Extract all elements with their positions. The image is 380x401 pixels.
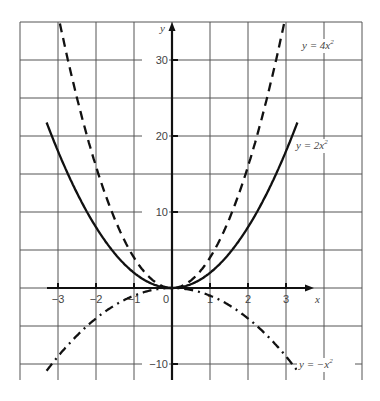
y-tick-label: 20 <box>156 130 168 142</box>
y-tick-label: −10 <box>149 358 168 370</box>
y-axis-label: y <box>159 22 165 34</box>
parabola-chart: −3−2−10123−10102030xy y = 4x2y = 2x2y = … <box>0 0 380 401</box>
x-tick-label: 3 <box>283 293 289 305</box>
y-tick-label: 30 <box>156 54 168 66</box>
x-tick-label: −2 <box>90 293 103 305</box>
labels: y = 4x2y = 2x2y = −x2 <box>294 38 358 372</box>
x-tick-label: 0 <box>163 293 169 305</box>
x-axis-label: x <box>314 293 320 305</box>
y-axis-arrow-icon <box>169 22 176 31</box>
x-tick-label: −3 <box>52 293 65 305</box>
x-axis-arrow-icon <box>305 285 314 292</box>
x-tick-label: 2 <box>245 293 251 305</box>
y-tick-label: 10 <box>156 206 168 218</box>
curve-label: y = 4x2 <box>301 38 334 51</box>
curve-label: y = 2x2 <box>295 138 328 151</box>
x-tick-label: −1 <box>128 293 141 305</box>
curve-label: y = −x2 <box>298 357 333 370</box>
